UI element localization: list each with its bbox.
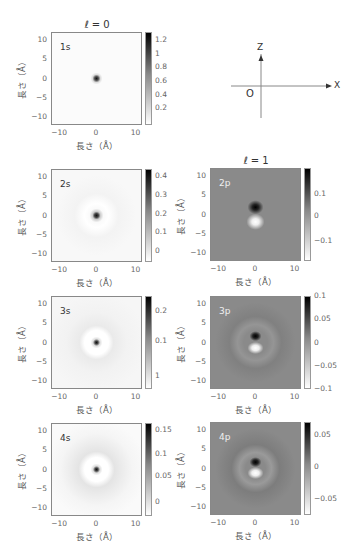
colorbar-tick: 0.1 [314, 189, 326, 198]
orbital-label: 1s [60, 42, 70, 52]
colorbar-tick: −0.1 [314, 384, 332, 393]
y-tick: 5 [29, 445, 47, 454]
x-axis-label: 長さ（Å） [51, 276, 143, 288]
x-tick: 0 [253, 392, 258, 401]
x-tick: −10 [210, 392, 226, 401]
x-tick: −10 [210, 264, 226, 273]
colorbar-tick: 1 [155, 49, 160, 58]
colorbar-tick: 0.1 [155, 336, 167, 345]
x-tick: 10 [290, 264, 300, 273]
y-tick: −5 [29, 357, 47, 366]
y-tick: 0 [29, 74, 47, 83]
colorbar-tick: 0.4 [155, 90, 167, 99]
x-tick: 0 [94, 128, 99, 137]
x-tick: 10 [131, 392, 141, 401]
colorbar-tick: 0 [314, 462, 319, 471]
x-tick: 10 [131, 128, 141, 137]
colorbar-tick: 0.3 [155, 190, 167, 199]
x-tick: 0 [253, 264, 258, 273]
colorbar-tick: 0.1 [314, 291, 326, 300]
colorbar [145, 296, 152, 389]
x-axis-label: 長さ（Å） [51, 139, 143, 151]
axes-diagram: Z X O [220, 30, 340, 130]
y-tick: 10 [188, 299, 206, 308]
y-tick: 5 [188, 318, 206, 327]
colorbar-tick: 0.2 [155, 209, 167, 218]
colorbar-tick: 1 [155, 371, 160, 380]
x-axis-label: 長さ（Å） [210, 529, 302, 541]
colorbar-tick: −0.1 [314, 236, 332, 245]
x-tick: −10 [210, 518, 226, 527]
y-tick: 10 [188, 425, 206, 434]
y-tick: 10 [29, 172, 47, 181]
x-axis-label: 長さ（Å） [210, 275, 302, 287]
colorbar-tick: 0.2 [155, 306, 167, 315]
y-tick: 5 [29, 54, 47, 63]
y-tick: 10 [29, 299, 47, 308]
orbital-label: 2p [219, 178, 230, 188]
orbital-label: 4p [219, 432, 230, 442]
x-tick: 10 [131, 265, 141, 274]
x-tick: 10 [290, 392, 300, 401]
x-tick: 0 [94, 519, 99, 528]
x-tick: −10 [51, 392, 67, 401]
x-tick: −10 [51, 128, 67, 137]
colorbar-tick: 0.8 [155, 62, 167, 71]
x-tick: 10 [290, 518, 300, 527]
y-tick: 10 [188, 171, 206, 180]
colorbar-tick: 0.4 [155, 171, 167, 180]
orbital-label: 3p [219, 306, 230, 316]
colorbar-tick: 0 [155, 246, 160, 255]
colorbar-tick: 0 [314, 211, 319, 220]
y-tick: −10 [188, 502, 206, 511]
colorbar [304, 422, 311, 515]
y-tick: 10 [29, 426, 47, 435]
colorbar-tick: 0.6 [155, 76, 167, 85]
colorbar-tick: 0.05 [155, 471, 172, 480]
y-tick: −10 [29, 112, 47, 121]
colorbar-tick: 0.2 [155, 103, 167, 112]
y-tick: −5 [188, 229, 206, 238]
y-tick: 10 [29, 35, 47, 44]
y-tick: 0 [29, 338, 47, 347]
x-tick: 0 [94, 265, 99, 274]
y-axis-label: 長さ（Å） [174, 184, 186, 244]
colorbar-tick: 0 [314, 338, 319, 347]
y-tick: −10 [188, 248, 206, 257]
y-tick: 5 [188, 444, 206, 453]
y-tick: 0 [29, 211, 47, 220]
x-axis-label: 長さ（Å） [51, 403, 143, 415]
colorbar-tick: 1.2 [155, 35, 167, 44]
colorbar [304, 168, 311, 261]
colorbar [145, 32, 152, 125]
y-axis-label: 長さ（Å） [15, 48, 27, 108]
y-axis-label: 長さ（Å） [174, 312, 186, 372]
y-axis-label: 長さ（Å） [15, 312, 27, 372]
y-tick: 0 [29, 465, 47, 474]
x-tick: 0 [253, 518, 258, 527]
y-tick: −5 [29, 93, 47, 102]
y-tick: −10 [29, 503, 47, 512]
colorbar-tick: −0.05 [314, 494, 337, 503]
orbital-label: 4s [60, 433, 70, 443]
x-axis-label: 長さ（Å） [210, 403, 302, 415]
y-tick: 5 [29, 318, 47, 327]
colorbar-tick: 0.1 [155, 227, 167, 236]
colorbar [145, 169, 152, 262]
colorbar [304, 296, 311, 389]
colorbar-tick: 0.1 [155, 449, 167, 458]
header-l1: ℓ = 1 [210, 155, 302, 166]
y-tick: 0 [188, 464, 206, 473]
x-axis-label: X [334, 80, 340, 90]
y-tick: −10 [29, 249, 47, 258]
orbital-label: 3s [60, 306, 70, 316]
colorbar-tick: 0 [155, 497, 160, 506]
y-tick: −10 [29, 376, 47, 385]
x-tick: −10 [51, 265, 67, 274]
colorbar-tick: 0.05 [314, 430, 331, 439]
colorbar-tick: 0.05 [314, 314, 331, 323]
header-l0: ℓ = 0 [51, 19, 143, 30]
y-tick: 0 [188, 338, 206, 347]
y-tick: 5 [29, 191, 47, 200]
y-tick: −5 [188, 483, 206, 492]
